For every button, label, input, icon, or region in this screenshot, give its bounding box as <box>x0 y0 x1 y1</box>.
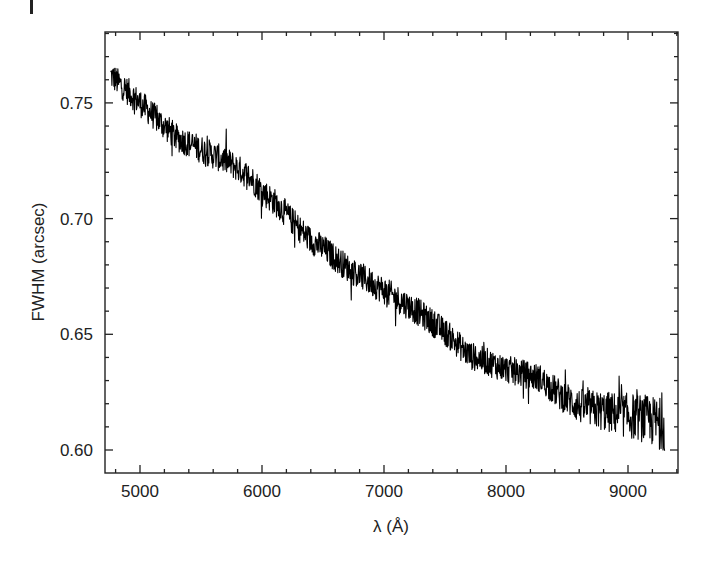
plot-border <box>105 32 678 473</box>
x-tick-label: 9000 <box>609 482 647 501</box>
x-axis-label: λ (Å) <box>373 517 409 536</box>
fwhm-series-line <box>111 68 665 451</box>
x-axis-ticks: 50006000700080009000 <box>116 32 677 501</box>
y-tick-label: 0.60 <box>60 441 93 460</box>
y-tick-label: 0.70 <box>60 210 93 229</box>
y-tick-label: 0.65 <box>60 325 93 344</box>
x-tick-label: 5000 <box>121 482 159 501</box>
y-tick-label: 0.75 <box>60 94 93 113</box>
fwhm-vs-wavelength-chart: 50006000700080009000 0.600.650.700.75 λ … <box>0 0 706 564</box>
data-series <box>111 68 665 451</box>
x-tick-label: 6000 <box>243 482 281 501</box>
x-tick-label: 7000 <box>365 482 403 501</box>
y-axis-label: FWHM (arcsec) <box>29 203 48 322</box>
plot-frame <box>105 32 678 473</box>
x-tick-label: 8000 <box>487 482 525 501</box>
